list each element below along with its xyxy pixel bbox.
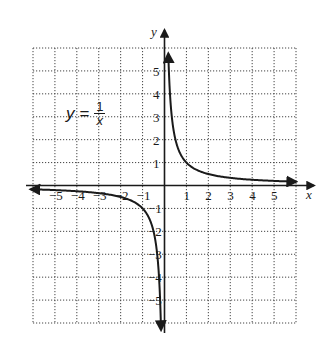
svg-text:−1: −1	[148, 201, 162, 216]
hyperbola-chart: −5−4−3−2−112345−5−4−3−2−112345 x y	[0, 0, 323, 343]
equation-denominator: x	[97, 114, 104, 128]
equation-label: y = 1 x	[66, 100, 105, 128]
svg-text:2: 2	[153, 133, 160, 148]
svg-text:−3: −3	[148, 247, 162, 262]
svg-text:2: 2	[205, 188, 212, 203]
svg-text:4: 4	[249, 188, 256, 203]
svg-text:4: 4	[153, 87, 160, 102]
y-axis-label: y	[149, 24, 157, 39]
curve-negative-branch	[31, 189, 161, 330]
svg-text:5: 5	[271, 188, 278, 203]
svg-text:1: 1	[153, 156, 160, 171]
svg-text:3: 3	[153, 110, 160, 125]
equation-numerator: 1	[94, 100, 105, 114]
equation-lhs: y =	[66, 104, 89, 124]
svg-text:5: 5	[153, 64, 160, 79]
svg-text:1: 1	[183, 188, 190, 203]
svg-text:−3: −3	[93, 188, 107, 203]
svg-text:3: 3	[227, 188, 234, 203]
x-axis-label: x	[305, 187, 312, 202]
equation-fraction: 1 x	[94, 100, 105, 128]
